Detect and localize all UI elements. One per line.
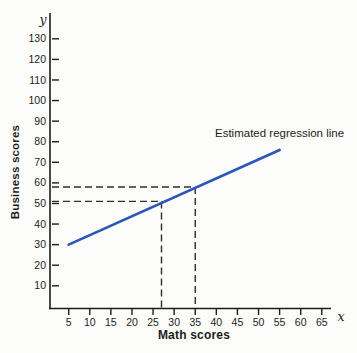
y-tick-label: 50 xyxy=(34,197,46,209)
x-tick-label: 65 xyxy=(316,316,328,328)
regression-line xyxy=(69,150,280,245)
y-tick-label: 10 xyxy=(34,279,46,291)
x-tick-label: 55 xyxy=(274,316,286,328)
x-tick-label: 45 xyxy=(232,316,244,328)
x-tick-label: 30 xyxy=(168,316,180,328)
y-tick-label: 40 xyxy=(34,218,46,230)
regression-figure: 1020304050607080901001101201305101520253… xyxy=(0,0,357,353)
x-tick-label: 15 xyxy=(105,316,117,328)
x-tick-label: 10 xyxy=(84,316,96,328)
y-tick-label: 110 xyxy=(29,74,46,86)
y-tick-label: 100 xyxy=(28,94,46,106)
x-tick-label: 20 xyxy=(126,316,138,328)
y-axis-title: Business scores xyxy=(9,125,21,219)
y-tick-label: 80 xyxy=(34,135,46,147)
y-tick-label: 120 xyxy=(28,53,46,65)
x-tick-label: 60 xyxy=(295,316,307,328)
x-axis-title: Math scores xyxy=(158,328,230,342)
x-tick-label: 40 xyxy=(210,316,222,328)
y-tick-label: 60 xyxy=(34,176,46,188)
x-tick-label: 35 xyxy=(189,316,201,328)
chart-canvas: 1020304050607080901001101201305101520253… xyxy=(0,0,357,353)
x-tick-label: 50 xyxy=(253,316,265,328)
y-tick-label: 30 xyxy=(34,238,46,250)
y-tick-label: 130 xyxy=(28,32,46,44)
y-tick-label: 20 xyxy=(34,259,46,271)
x-tick-label: 5 xyxy=(66,316,72,328)
y-axis-letter: y xyxy=(39,12,46,27)
y-tick-label: 70 xyxy=(34,156,46,168)
regression-line-label: Estimated regression line xyxy=(215,127,344,139)
x-tick-label: 25 xyxy=(147,316,159,328)
y-tick-label: 90 xyxy=(34,115,46,127)
x-axis-letter: x xyxy=(337,309,344,324)
